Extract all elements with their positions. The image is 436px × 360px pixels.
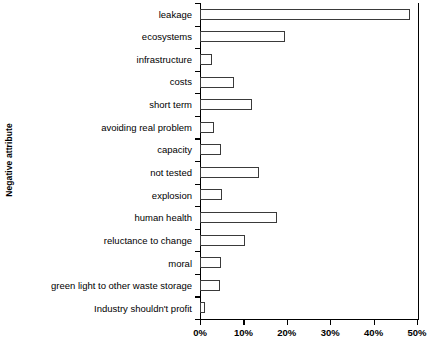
bar-leakage xyxy=(200,9,410,20)
bars-layer xyxy=(201,3,418,319)
bar-capacity xyxy=(200,144,221,155)
y-axis-tick-label: avoiding real problem xyxy=(18,116,196,139)
y-axis-tick-label: Industry shouldn't profit xyxy=(18,297,196,320)
x-axis-tick xyxy=(243,320,244,325)
y-axis-tick-label: ecosystems xyxy=(18,26,196,49)
horizontal-bar-chart: Negative attribute leakage ecosystems in… xyxy=(0,0,436,360)
bar-row xyxy=(201,71,418,94)
bar-not-tested xyxy=(200,167,259,178)
x-axis-tick-label: 10% xyxy=(234,327,253,338)
y-axis-tick-label: leakage xyxy=(18,3,196,26)
bar-row xyxy=(201,116,418,139)
x-axis-tick-label: 30% xyxy=(321,327,340,338)
bar-row xyxy=(201,274,418,297)
x-axis-tick xyxy=(417,320,418,325)
x-axis-tick-label: 20% xyxy=(277,327,296,338)
bar-row xyxy=(201,297,418,320)
y-axis-tick-label: not tested xyxy=(18,161,196,184)
x-axis-ticks xyxy=(200,320,419,326)
y-axis-tick-label: costs xyxy=(18,71,196,94)
bar-row xyxy=(201,3,418,26)
x-axis-tick-label: 0% xyxy=(193,327,207,338)
plot-area xyxy=(200,3,419,320)
y-axis-tick-label: reluctance to change xyxy=(18,229,196,252)
y-axis-tick-label: short term xyxy=(18,94,196,117)
bar-moral xyxy=(200,257,221,268)
bar-row xyxy=(201,161,418,184)
y-axis-tick-label: infrastructure xyxy=(18,48,196,71)
y-axis-tick-label: explosion xyxy=(18,184,196,207)
x-axis-tick xyxy=(330,320,331,325)
bar-row xyxy=(201,184,418,207)
y-axis-title: Negative attribute xyxy=(0,0,18,320)
bar-ecosystems xyxy=(200,31,285,42)
bar-green-light-to-other-waste-storage xyxy=(200,280,220,291)
y-axis-tick-label: green light to other waste storage xyxy=(18,275,196,298)
bar-industry-shouldnt-profit xyxy=(200,302,205,313)
bar-row xyxy=(201,26,418,49)
x-axis-tick xyxy=(374,320,375,325)
x-axis-tick-label: 40% xyxy=(364,327,383,338)
bar-row xyxy=(201,48,418,71)
x-axis-tick-labels: 0%10%20%30%40%50% xyxy=(200,327,419,341)
bar-infrastructure xyxy=(200,54,212,65)
bar-human-health xyxy=(200,212,277,223)
bar-explosion xyxy=(200,189,222,200)
bar-row xyxy=(201,138,418,161)
bar-row xyxy=(201,229,418,252)
bar-avoiding-real-problem xyxy=(200,122,214,133)
bar-short-term xyxy=(200,99,252,110)
x-axis-tick-label: 50% xyxy=(407,327,426,338)
bar-row xyxy=(201,93,418,116)
bar-reluctance-to-change xyxy=(200,235,245,246)
y-axis-category-labels: leakage ecosystems infrastructure costs … xyxy=(18,3,196,320)
y-axis-tick-label: human health xyxy=(18,207,196,230)
x-axis-tick xyxy=(287,320,288,325)
bar-costs xyxy=(200,77,234,88)
y-axis-title-text: Negative attribute xyxy=(4,123,14,197)
bar-row xyxy=(201,251,418,274)
y-axis-tick-label: capacity xyxy=(18,139,196,162)
y-axis-tick-label: moral xyxy=(18,252,196,275)
x-axis-tick xyxy=(200,320,201,325)
bar-row xyxy=(201,206,418,229)
